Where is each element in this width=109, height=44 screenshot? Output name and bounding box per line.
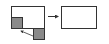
move-arrow-icon (21, 31, 33, 36)
outer-block (34, 29, 45, 40)
diagram-canvas (0, 0, 109, 44)
inner-block (12, 18, 23, 29)
frame-after (62, 7, 97, 29)
